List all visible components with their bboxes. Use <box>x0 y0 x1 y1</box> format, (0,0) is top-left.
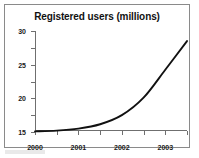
y-tick-label-15: 15 <box>18 129 26 136</box>
y-tick-label-30: 30 <box>18 28 26 35</box>
x-tick-label-2003: 2003 <box>157 144 173 151</box>
chart-title: Registered users (millions) <box>5 11 189 22</box>
series-line-registered-users <box>35 41 187 131</box>
y-tick-label-20: 20 <box>18 95 26 102</box>
chart-plot-area: 051015202530 200020012002200320042005200… <box>35 31 187 131</box>
x-tick-label-2001: 2001 <box>71 144 87 151</box>
y-tick-label-25: 25 <box>18 61 26 68</box>
chart-figure-frame: Registered users (millions) 051015202530… <box>4 4 190 148</box>
page-edge-artifact <box>5 150 45 154</box>
screenshot-root: Registered users (millions) 051015202530… <box>0 0 199 158</box>
x-tick-label-2002: 2002 <box>114 144 130 151</box>
chart-series-svg <box>35 31 187 132</box>
x-tick-2007: 2007 <box>187 131 188 135</box>
